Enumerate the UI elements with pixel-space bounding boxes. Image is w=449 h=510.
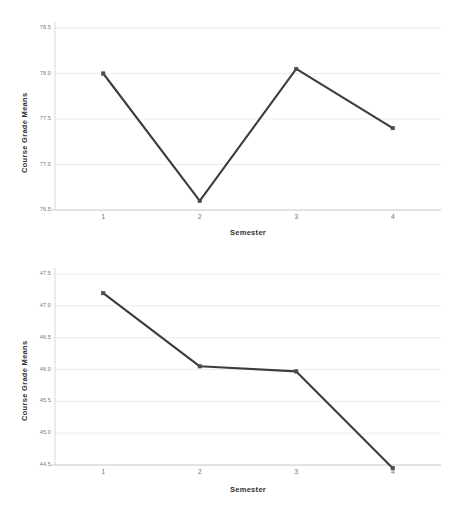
chart-top-y-axis-title: Course Grade Means <box>20 93 29 173</box>
figure-canvas: Course Grade Means Semester 78.578.077.5… <box>0 0 449 510</box>
y-axis-tick-label: 47.0 <box>40 302 51 308</box>
chart-top-x-axis-title: Semester <box>55 228 441 237</box>
y-axis-tick-label: 46.0 <box>40 366 51 372</box>
chart-bottom-y-axis-title: Course Grade Means <box>20 340 29 420</box>
x-axis-tick-label: 1 <box>83 468 123 475</box>
y-axis-tick-label: 77.0 <box>40 161 51 167</box>
y-axis-tick-label: 46.5 <box>40 334 51 340</box>
x-axis-tick-label: 3 <box>276 213 316 220</box>
y-axis-tick-label: 78.0 <box>40 70 51 76</box>
y-axis-tick-label: 45.0 <box>40 429 51 435</box>
y-axis-tick-label: 76.5 <box>40 206 51 212</box>
x-axis-tick-label: 2 <box>180 468 220 475</box>
x-axis-tick-label: 4 <box>373 468 413 475</box>
chart-bottom: Course Grade Means Semester 47.547.046.5… <box>0 250 449 510</box>
y-axis-tick-label: 77.5 <box>40 115 51 121</box>
x-axis-tick-label: 3 <box>276 468 316 475</box>
y-axis-tick-label: 45.5 <box>40 397 51 403</box>
y-axis-tick-label: 47.5 <box>40 270 51 276</box>
chart-bottom-x-axis-title: Semester <box>55 485 441 494</box>
x-axis-tick-label: 4 <box>373 213 413 220</box>
chart-top: Course Grade Means Semester 78.578.077.5… <box>0 0 449 250</box>
chart-bottom-plot-area: Course Grade Means Semester 47.547.046.5… <box>0 250 449 510</box>
x-axis-tick-label: 2 <box>180 213 220 220</box>
y-axis-tick-label: 78.5 <box>40 24 51 30</box>
y-axis-tick-label: 44.5 <box>40 461 51 467</box>
x-axis-tick-label: 1 <box>83 213 123 220</box>
chart-top-plot-area: Course Grade Means Semester 78.578.077.5… <box>0 0 449 250</box>
